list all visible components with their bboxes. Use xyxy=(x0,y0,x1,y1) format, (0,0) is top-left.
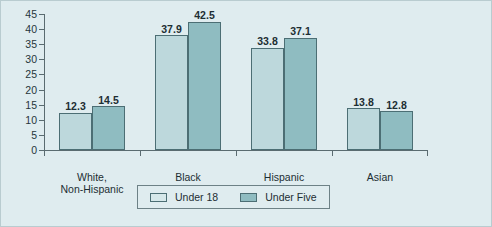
bar-group: 33.837.1 xyxy=(251,14,317,150)
x-axis-tick xyxy=(236,151,237,156)
bar-group: 12.314.5 xyxy=(59,14,125,150)
bar-under-18[interactable]: 33.8 xyxy=(251,48,284,150)
bar-value-label: 12.8 xyxy=(386,100,406,111)
y-axis-tick-label: 10 xyxy=(25,115,37,126)
bar-value-label: 33.8 xyxy=(257,36,277,47)
legend-label: Under 18 xyxy=(175,192,218,203)
y-axis-tick-label: 45 xyxy=(25,9,37,20)
bar-under-18[interactable]: 13.8 xyxy=(347,108,380,150)
y-axis-tick xyxy=(39,105,44,106)
y-axis-tick xyxy=(39,90,44,91)
plot-area: 051015202530354045 12.314.537.942.533.83… xyxy=(44,14,428,151)
bar-value-label: 42.5 xyxy=(194,10,214,21)
x-axis-tick xyxy=(427,151,428,156)
legend-item-under-five[interactable]: Under Five xyxy=(240,192,316,203)
bar-under-five[interactable]: 42.5 xyxy=(188,22,221,150)
legend-swatch-icon xyxy=(240,193,257,202)
legend-label: Under Five xyxy=(265,192,316,203)
bar-under-18[interactable]: 12.3 xyxy=(59,113,92,150)
x-axis-tick xyxy=(44,151,45,156)
x-axis-tick xyxy=(332,151,333,156)
bar-value-label: 13.8 xyxy=(353,97,373,108)
legend-swatch-icon xyxy=(150,193,167,202)
y-axis-tick-label: 0 xyxy=(31,145,37,156)
bar-value-label: 14.5 xyxy=(98,95,118,106)
y-axis-tick xyxy=(39,44,44,45)
category-label-line: White, xyxy=(60,171,123,183)
bar-under-five[interactable]: 37.1 xyxy=(284,38,317,150)
category-label-line: Black xyxy=(175,171,201,183)
y-axis-tick xyxy=(39,135,44,136)
bar-under-five[interactable]: 12.8 xyxy=(380,111,413,150)
chart-legend[interactable]: Under 18Under Five xyxy=(137,185,330,209)
x-axis-category-label: Black xyxy=(175,171,201,183)
bar-value-label: 37.9 xyxy=(161,24,181,35)
x-axis-category-label: White,Non-Hispanic xyxy=(60,171,123,195)
chart-figure: 051015202530354045 12.314.537.942.533.83… xyxy=(0,0,492,227)
y-axis-tick xyxy=(39,120,44,121)
x-axis-category-label: Asian xyxy=(367,171,393,183)
y-axis-tick xyxy=(39,59,44,60)
category-label-line: Asian xyxy=(367,171,393,183)
y-axis-tick-label: 35 xyxy=(25,39,37,50)
x-axis-tick xyxy=(140,151,141,156)
bar-value-label: 12.3 xyxy=(65,101,85,112)
y-axis-tick xyxy=(39,14,44,15)
bar-value-label: 37.1 xyxy=(290,26,310,37)
legend-item-under-18[interactable]: Under 18 xyxy=(150,192,218,203)
y-axis-tick-label: 5 xyxy=(31,130,37,141)
y-axis-tick-label: 25 xyxy=(25,69,37,80)
bar-under-five[interactable]: 14.5 xyxy=(92,106,125,150)
x-axis-category-label: Hispanic xyxy=(264,171,304,183)
y-axis-tick xyxy=(39,29,44,30)
y-axis-tick-label: 40 xyxy=(25,24,37,35)
y-axis-line xyxy=(44,14,45,151)
y-axis-tick xyxy=(39,74,44,75)
y-axis-tick-label: 30 xyxy=(25,54,37,65)
bar-group: 13.812.8 xyxy=(347,14,413,150)
y-axis-tick-label: 20 xyxy=(25,84,37,95)
category-label-line: Non-Hispanic xyxy=(60,183,123,195)
bar-under-18[interactable]: 37.9 xyxy=(155,35,188,150)
bar-group: 37.942.5 xyxy=(155,14,221,150)
y-axis-tick-label: 15 xyxy=(25,99,37,110)
category-label-line: Hispanic xyxy=(264,171,304,183)
